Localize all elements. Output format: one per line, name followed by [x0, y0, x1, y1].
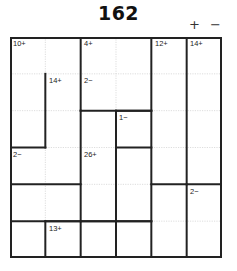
operations-legend: + − [189, 18, 224, 31]
calcudoku-puzzle-page: 162 + − [0, 0, 237, 271]
grid-svg [10, 37, 222, 258]
puzzle-grid[interactable]: 10+ 4+ 12+ 14+ 14+ 2− 1− 2− 26+ 2− 13+ [10, 37, 222, 258]
